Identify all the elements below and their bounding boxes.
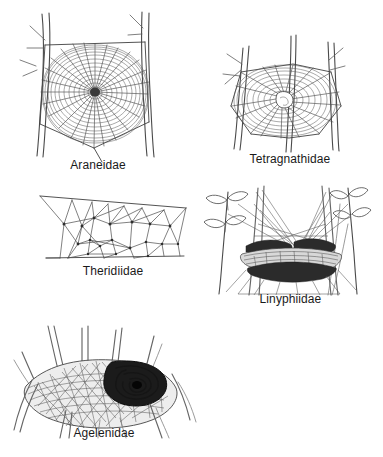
agelenidae-funnel-retreat	[104, 361, 167, 406]
caption-agelenidae: Agelenidae	[4, 426, 204, 440]
linyphiidae-left-plant-sprig	[204, 192, 248, 294]
panel-araneidae: Araneidae	[18, 4, 178, 162]
linyphiidae-web-drawing	[198, 184, 383, 296]
caption-linyphiidae: Linyphiidae	[198, 292, 383, 306]
theridiidae-web-drawing	[38, 188, 188, 266]
agelenidae-web-drawing	[4, 326, 204, 438]
theridiidae-tangle-threads	[40, 196, 186, 258]
caption-araneidae: Araneidae	[18, 158, 178, 172]
panel-agelenidae: Agelenidae	[4, 326, 204, 438]
panel-tetragnathidae: Tetragnathidae	[205, 34, 375, 154]
caption-tetragnathidae: Tetragnathidae	[205, 152, 375, 166]
panel-theridiidae: Theridiidae	[38, 188, 188, 266]
tetragnathidae-web-drawing	[205, 34, 375, 154]
spider-web-types-figure: Araneidae	[0, 0, 383, 457]
caption-theridiidae: Theridiidae	[38, 264, 188, 278]
araneidae-web-drawing	[18, 4, 178, 162]
araneidae-hub	[90, 88, 100, 97]
panel-linyphiidae: Linyphiidae	[198, 184, 383, 296]
theridiidae-support-lines	[40, 196, 186, 258]
